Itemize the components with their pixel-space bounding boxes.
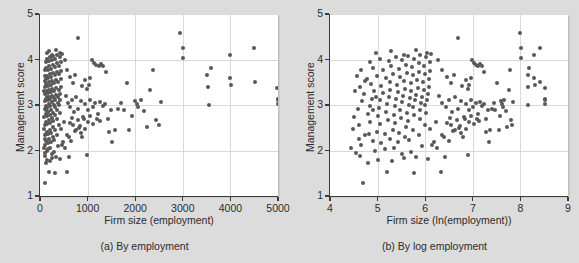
scatter-point	[415, 78, 419, 82]
scatter-point	[436, 58, 440, 62]
scatter-point	[444, 105, 448, 109]
scatter-point	[357, 123, 361, 127]
scatter-point	[472, 122, 476, 126]
scatter-point	[509, 118, 513, 122]
x-tick-mark	[39, 197, 40, 201]
scatter-point	[74, 95, 78, 99]
y-tick-mark	[325, 13, 329, 14]
x-tick-mark	[425, 197, 426, 201]
scatter-point	[371, 66, 375, 70]
x-tick-label: 8	[495, 203, 545, 214]
scatter-point	[502, 98, 506, 102]
scatter-point	[384, 110, 388, 114]
scatter-point	[154, 118, 158, 122]
x-tick-mark	[87, 197, 88, 201]
scatter-point	[88, 114, 92, 118]
scatter-point	[391, 128, 395, 132]
scatter-point	[400, 100, 404, 104]
scatter-point	[428, 127, 432, 131]
scatter-point	[456, 36, 460, 40]
scatter-point	[91, 122, 95, 126]
y-tick-mark	[325, 59, 329, 60]
scatter-point	[378, 57, 382, 61]
scatter-point	[88, 98, 92, 102]
scatter-point	[428, 60, 432, 64]
scatter-point	[68, 105, 72, 109]
scatter-point	[467, 83, 471, 87]
scatter-point	[402, 79, 406, 83]
scatter-point	[396, 140, 400, 144]
scatter-point	[148, 88, 152, 92]
scatter-point	[388, 137, 392, 141]
scatter-point	[55, 117, 59, 121]
scatter-point	[368, 120, 372, 124]
scatter-point	[467, 120, 471, 124]
scatter-point	[276, 102, 278, 106]
scatter-point	[407, 138, 411, 142]
scatter-point	[393, 121, 397, 125]
scatter-point	[466, 153, 470, 157]
scatter-point	[526, 103, 530, 107]
scatter-point	[76, 36, 80, 40]
scatter-point	[461, 135, 465, 139]
panel-by-employment: 010002000300040005000 12345 Firm size (e…	[0, 0, 289, 263]
y-axis-title-a: Management score	[14, 62, 26, 152]
scatter-point	[357, 137, 361, 141]
scatter-point	[451, 129, 455, 133]
x-tick-mark	[182, 197, 183, 201]
scatter-point	[405, 111, 409, 115]
scatter-point	[80, 135, 84, 139]
y-axis-line-a	[39, 14, 40, 197]
scatter-point	[417, 70, 421, 74]
scatter-point	[106, 117, 110, 121]
scatter-point	[385, 102, 389, 106]
x-tick-label: 7	[448, 203, 498, 214]
scatter-point	[432, 140, 436, 144]
x-tick-mark	[520, 197, 521, 201]
scatter-point	[73, 73, 77, 77]
scatter-point	[406, 119, 410, 123]
scatter-point	[398, 108, 402, 112]
scatter-point	[486, 108, 490, 112]
scatter-point	[371, 139, 375, 143]
x-tick-label: 9	[543, 203, 579, 214]
scatter-point	[505, 125, 509, 129]
scatter-point	[379, 84, 383, 88]
scatter-point	[378, 122, 382, 126]
scatter-point	[414, 155, 418, 159]
scatter-point	[56, 101, 60, 105]
scatter-point	[543, 86, 547, 90]
scatter-point	[252, 46, 256, 50]
scatter-point	[64, 94, 68, 98]
x-tick-mark	[329, 197, 330, 201]
scatter-point	[358, 85, 362, 89]
scatter-point	[508, 68, 512, 72]
scatter-point	[53, 171, 57, 175]
scatter-point	[116, 107, 120, 111]
x-tick-mark	[277, 197, 278, 201]
scatter-point	[422, 88, 426, 92]
scatter-point	[426, 92, 430, 96]
scatter-point	[368, 104, 372, 108]
scatter-point	[359, 68, 363, 72]
y-tick-mark	[35, 104, 39, 105]
scatter-point	[394, 97, 398, 101]
scatter-point	[532, 76, 536, 80]
scatter-point	[376, 114, 380, 118]
gridline-vertical	[520, 14, 521, 196]
gridline-horizontal	[330, 105, 568, 106]
x-tick-label: 0	[15, 203, 65, 214]
scatter-point	[471, 105, 475, 109]
scatter-point	[381, 68, 385, 72]
panel-caption-b: (b) By log employment	[290, 240, 579, 252]
scatter-point	[98, 119, 102, 123]
scatter-point	[394, 55, 398, 59]
gridline-horizontal	[330, 14, 568, 15]
scatter-point	[275, 86, 278, 90]
scatter-point	[65, 133, 69, 137]
scatter-point	[374, 51, 378, 55]
y-tick-mark	[325, 150, 329, 151]
scatter-point	[458, 124, 462, 128]
gridline-horizontal	[40, 105, 278, 106]
scatter-point	[538, 46, 542, 50]
